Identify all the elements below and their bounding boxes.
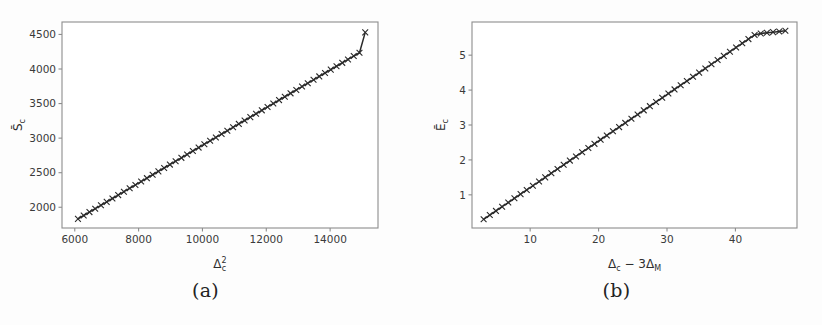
plot-a-svg: 6000800010000120001400020002500300035004… <box>0 0 411 325</box>
x-axis-title: Δ2c <box>213 256 226 273</box>
x-tick-label: 40 <box>729 233 742 245</box>
y-tick-label: 3500 <box>29 97 56 109</box>
y-tick-label: 3 <box>459 119 466 131</box>
x-tick-label: 8000 <box>125 233 152 245</box>
x-axis-title: Δc − 3ΔM <box>608 257 661 273</box>
plot-b-svg: 1020304012345Δc − 3ΔMĒc <box>411 0 822 325</box>
x-tick-label: 10000 <box>186 233 219 245</box>
x-tick-label: 10 <box>523 233 536 245</box>
x-tick-label: 12000 <box>250 233 283 245</box>
panel-a-caption: (a) <box>0 279 411 301</box>
y-tick-label: 2500 <box>29 166 56 178</box>
y-axis-title: Ēc <box>434 119 450 131</box>
x-tick-label: 30 <box>660 233 673 245</box>
x-tick-label: 20 <box>592 233 605 245</box>
plot-area-background <box>472 22 797 228</box>
y-tick-label: 4500 <box>29 28 56 40</box>
panel-b: 1020304012345Δc − 3ΔMĒc (b) <box>411 0 822 325</box>
x-tick-label: 6000 <box>61 233 88 245</box>
y-tick-label: 5 <box>459 49 466 61</box>
y-axis-title: S̄c <box>11 119 27 131</box>
y-tick-label: 4000 <box>29 63 56 75</box>
x-tick-label: 14000 <box>313 233 346 245</box>
panel-a: 6000800010000120001400020002500300035004… <box>0 0 411 325</box>
y-tick-label: 4 <box>459 84 466 96</box>
y-tick-label: 1 <box>459 189 466 201</box>
figure-root: 6000800010000120001400020002500300035004… <box>0 0 822 325</box>
panel-b-caption: (b) <box>411 279 822 301</box>
y-tick-label: 2 <box>459 154 466 166</box>
plot-area-background <box>62 22 378 228</box>
y-tick-label: 2000 <box>29 201 56 213</box>
y-tick-label: 3000 <box>29 132 56 144</box>
